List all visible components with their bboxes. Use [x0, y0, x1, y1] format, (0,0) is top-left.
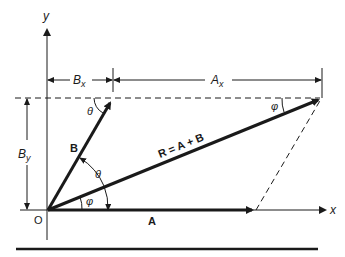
- dashed-parallelogram-side: [256, 99, 321, 210]
- theta-mid-label: θ: [95, 168, 101, 180]
- y-axis-label: y: [42, 9, 50, 23]
- phi-bottom-label: φ: [86, 195, 93, 207]
- origin-label: O: [34, 214, 43, 226]
- theta-phi-arc: [104, 186, 108, 210]
- phi-arc-top: [282, 98, 284, 112]
- phi-top-label: φ: [271, 100, 278, 112]
- vector-diagram: y x O Bx Ax By A B R = A + B φ θ θ φ: [0, 0, 345, 257]
- vector-b: [48, 103, 110, 210]
- phi-arc-bottom: [80, 197, 82, 210]
- by-label: By: [18, 147, 31, 163]
- x-axis-label: x: [329, 203, 337, 217]
- vector-b-label: B: [70, 142, 78, 154]
- vector-a-label: A: [148, 215, 156, 227]
- theta-arc-top: [94, 98, 103, 113]
- ax-label: Ax: [210, 73, 224, 89]
- theta-top-label: θ: [87, 105, 93, 117]
- bx-label: Bx: [73, 73, 86, 89]
